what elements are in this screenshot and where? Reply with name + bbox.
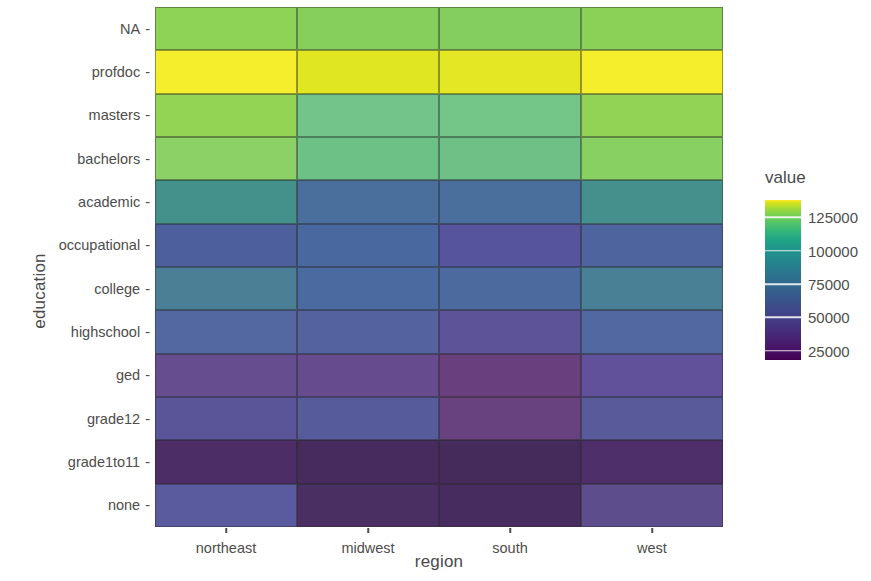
heatmap-cell	[297, 224, 439, 267]
heatmap-cell	[155, 354, 297, 397]
heatmap-cell	[297, 440, 439, 483]
legend-tick-mark	[765, 250, 801, 252]
legend-tick-label: 100000	[808, 242, 858, 259]
legend-tick-label: 125000	[808, 209, 858, 226]
legend-colorbar	[765, 200, 801, 360]
x-tick-mark	[225, 528, 227, 533]
heatmap-cell	[581, 7, 723, 50]
legend-tick-label: 25000	[808, 342, 850, 359]
heatmap-cell	[155, 180, 297, 223]
legend-tick-mark	[765, 283, 801, 285]
legend: value 125000100000750005000025000	[742, 168, 871, 373]
x-tick-mark	[509, 528, 511, 533]
x-axis-tick-labels: northeastmidwestsouthwest	[155, 528, 723, 552]
heatmap-cell	[155, 50, 297, 93]
y-tick-label-occupational: occupational-	[0, 237, 150, 253]
y-tick-label-masters: masters-	[0, 107, 150, 123]
heatmap-cell	[297, 267, 439, 310]
heatmap-cell	[581, 484, 723, 527]
legend-tick-mark	[765, 350, 801, 352]
heatmap-cell	[155, 224, 297, 267]
y-tick-label-bachelors: bachelors-	[0, 151, 150, 167]
heatmap-cell	[439, 267, 581, 310]
heatmap-cell	[439, 484, 581, 527]
heatmap-cell	[439, 94, 581, 137]
heatmap-cell	[297, 310, 439, 353]
heatmap-cell	[297, 94, 439, 137]
heatmap-cell	[439, 137, 581, 180]
y-tick-label-grade1to11: grade1to11-	[0, 454, 150, 470]
heatmap-cell	[581, 137, 723, 180]
heatmap-cell	[439, 397, 581, 440]
heatmap-cell	[581, 310, 723, 353]
legend-tick-mark	[765, 217, 801, 219]
heatmap-cell	[297, 180, 439, 223]
heatmap-cell	[155, 310, 297, 353]
heatmap-cell	[439, 7, 581, 50]
heatmap-panel	[155, 7, 723, 527]
heatmap-cell	[155, 397, 297, 440]
heatmap-cell	[297, 7, 439, 50]
y-tick-label-na: NA-	[0, 21, 150, 37]
heatmap-cell	[297, 397, 439, 440]
heatmap-cell	[439, 354, 581, 397]
heatmap-cell	[439, 310, 581, 353]
y-tick-label-profdoc: profdoc-	[0, 64, 150, 80]
heatmap-cell	[439, 50, 581, 93]
y-tick-label-highschool: highschool-	[0, 324, 150, 340]
heatmap-cell	[439, 180, 581, 223]
y-tick-label-ged: ged-	[0, 367, 150, 383]
y-tick-label-college: college-	[0, 281, 150, 297]
heatmap-cell	[297, 354, 439, 397]
heatmap-cell	[581, 224, 723, 267]
heatmap-cell	[581, 180, 723, 223]
y-tick-label-grade12: grade12-	[0, 411, 150, 427]
heatmap-cell	[581, 354, 723, 397]
y-axis-tick-labels: NA-profdoc-masters-bachelors-academic-oc…	[0, 7, 150, 527]
heatmap-cell	[439, 224, 581, 267]
legend-tick-label: 75000	[808, 276, 850, 293]
heatmap-cell	[581, 50, 723, 93]
heatmap-cell	[155, 484, 297, 527]
legend-tick-label: 50000	[808, 309, 850, 326]
heatmap-cell	[581, 94, 723, 137]
heatmap-cell	[439, 440, 581, 483]
x-tick-mark	[367, 528, 369, 533]
heatmap-figure: education NA-profdoc-masters-bachelors-a…	[0, 0, 871, 581]
heatmap-cell	[155, 7, 297, 50]
x-axis-title: region	[155, 552, 723, 572]
heatmap-cell	[297, 484, 439, 527]
y-tick-label-academic: academic-	[0, 194, 150, 210]
heatmap-cell	[155, 94, 297, 137]
y-tick-label-none: none-	[0, 497, 150, 513]
heatmap-cell	[581, 267, 723, 310]
legend-title: value	[765, 168, 806, 188]
heatmap-cell	[297, 137, 439, 180]
x-tick-mark	[651, 528, 653, 533]
heatmap-cell	[297, 50, 439, 93]
heatmap-cell	[155, 267, 297, 310]
legend-tick-mark	[765, 317, 801, 319]
heatmap-cell	[581, 440, 723, 483]
heatmap-cell	[155, 137, 297, 180]
heatmap-cell	[155, 440, 297, 483]
heatmap-cell	[581, 397, 723, 440]
